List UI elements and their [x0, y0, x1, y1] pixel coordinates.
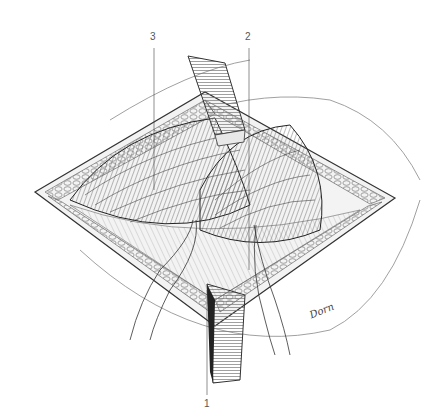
label-2: 2 — [245, 31, 251, 42]
label-3: 3 — [150, 31, 156, 42]
illustration: 3 2 1 Dorn — [0, 0, 437, 420]
label-1: 1 — [204, 398, 210, 409]
surgical-illustration-svg — [0, 0, 437, 420]
lower-retractor — [207, 284, 245, 383]
